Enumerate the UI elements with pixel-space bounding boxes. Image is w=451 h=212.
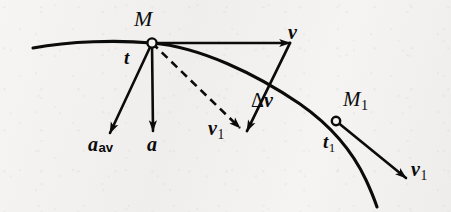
- label-velocity-v1-translated-subscript: 1: [217, 127, 224, 142]
- label-acceleration-average-base: a: [88, 133, 98, 155]
- vector-a-average-arrow: [110, 43, 152, 133]
- label-point-M1-base: M: [343, 87, 361, 111]
- vector-a-arrow: [152, 43, 153, 131]
- label-delta-v: Δv: [251, 90, 273, 110]
- point-marker-M: [147, 38, 156, 47]
- label-time-t: t: [124, 48, 129, 67]
- label-velocity-v: v: [288, 22, 297, 42]
- label-velocity-v1-translated-base: v: [208, 117, 217, 139]
- label-velocity-v1-translated: v1: [208, 118, 224, 141]
- delta-v-base: v: [264, 89, 273, 111]
- label-point-M1-subscript: 1: [361, 97, 369, 113]
- label-acceleration: a: [147, 134, 157, 154]
- label-velocity-v1-tangent-base: v: [411, 158, 420, 180]
- label-velocity-v1-tangent: v1: [411, 159, 427, 182]
- vector-v1-translated-arrow: [152, 43, 240, 128]
- physics-diagram-figure: M t v v1 Δv aav a M1 t1 v1: [0, 0, 451, 212]
- label-time-t1-subscript: 1: [328, 140, 335, 155]
- label-point-M: M: [134, 8, 152, 30]
- label-acceleration-average: aav: [88, 134, 113, 154]
- trajectory-curve: [33, 41, 377, 207]
- label-time-t1: t1: [323, 132, 335, 155]
- point-marker-M1: [332, 117, 340, 125]
- diagram-canvas: [0, 0, 451, 212]
- label-acceleration-average-subscript: av: [98, 140, 113, 155]
- label-velocity-v1-tangent-subscript: 1: [420, 168, 427, 183]
- vector-delta-v-arrow: [247, 43, 290, 131]
- label-point-M1: M1: [343, 89, 368, 112]
- delta-symbol: Δ: [251, 89, 264, 111]
